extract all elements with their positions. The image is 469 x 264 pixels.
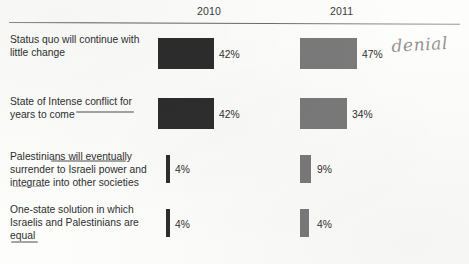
chart-row: One-state solution in which Israelis and… (0, 203, 469, 255)
chart-row: State of Intense conflict for years to c… (0, 95, 469, 145)
bar-2011 (300, 38, 357, 69)
bar-2011 (300, 155, 311, 183)
chart-row: Palestinians will eventually surrender t… (0, 150, 469, 200)
bar-value-2011: 4% (317, 219, 332, 230)
bar-2011 (300, 209, 309, 237)
bar-2010 (158, 38, 214, 69)
bar-value-2011: 47% (362, 49, 383, 60)
column-header-2010: 2010 (197, 5, 221, 17)
pencil-underline-mark (11, 241, 38, 243)
pencil-underline-mark (51, 160, 126, 162)
row-label: Status quo will continue with little cha… (10, 33, 156, 59)
bar-value-2010: 42% (219, 109, 240, 120)
bar-2010 (166, 209, 170, 237)
bar-2011 (300, 98, 347, 129)
bar-value-2010: 42% (219, 49, 240, 60)
bar-value-2010: 4% (175, 219, 190, 230)
bar-value-2011: 34% (352, 109, 373, 120)
scanned-chart-page: 2010 2011 Status quo will continue with … (0, 0, 469, 264)
bar-2010 (166, 155, 170, 183)
bar-2010 (158, 98, 214, 129)
row-label: One-state solution in which Israelis and… (10, 203, 156, 243)
handwritten-annotation-denial: denial (391, 33, 449, 56)
bar-value-2010: 4% (175, 164, 190, 175)
bar-value-2011: 9% (317, 164, 332, 175)
column-header-2011: 2011 (330, 5, 353, 17)
row-label: Palestinians will eventually surrender t… (10, 150, 156, 190)
header-divider-rule (9, 22, 460, 25)
pencil-underline-mark (13, 186, 45, 187)
row-label: State of Intense conflict for years to c… (10, 95, 156, 121)
pencil-underline-mark (76, 111, 134, 113)
